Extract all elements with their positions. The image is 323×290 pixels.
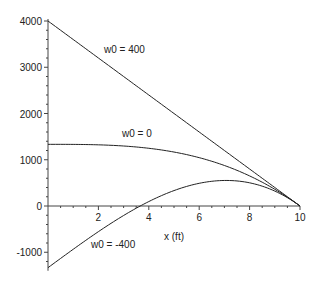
- series-label: w0 = -400: [90, 239, 136, 250]
- series-label: w0 = 0: [121, 128, 152, 139]
- y-tick-label: -1000: [16, 247, 42, 258]
- y-tick-label: 3000: [20, 62, 43, 73]
- series-line: [48, 180, 300, 267]
- x-tick-label: 6: [196, 212, 202, 223]
- series-line: [48, 144, 300, 206]
- chart: -100001000200030004000246810 w0 = 400w0 …: [0, 0, 323, 290]
- x-tick-label: 4: [146, 212, 152, 223]
- y-tick-label: 4000: [20, 16, 43, 27]
- y-tick-label: 2000: [20, 109, 43, 120]
- y-tick-label: 0: [36, 201, 42, 212]
- series-label: w0 = 400: [103, 44, 145, 55]
- y-tick-label: 1000: [20, 155, 43, 166]
- x-tick-label: 8: [247, 212, 253, 223]
- axes: -100001000200030004000246810: [16, 16, 306, 271]
- x-tick-label: 10: [294, 212, 306, 223]
- x-tick-label: 2: [96, 212, 102, 223]
- x-axis-label: x (ft): [164, 231, 184, 242]
- series-line: [48, 21, 300, 206]
